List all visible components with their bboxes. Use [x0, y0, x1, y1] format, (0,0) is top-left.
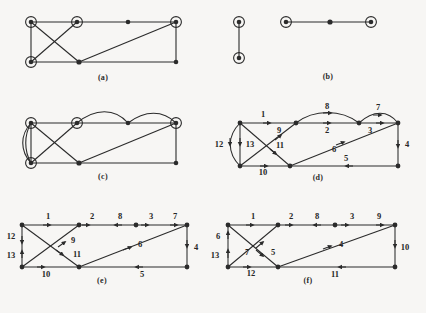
- label-edge-9: 9: [377, 211, 381, 221]
- edge-long-diag: [79, 22, 176, 62]
- panel-e-graph: 1 2 8 3 7 12 13 9 11 10 6 5 4: [0, 198, 213, 303]
- node-top-left: [226, 223, 231, 228]
- figure-canvas: (a): [0, 0, 426, 313]
- edge-left-curve-outer: [23, 123, 31, 163]
- label-edge-6: 6: [138, 239, 142, 249]
- label-edge-13: 13: [246, 139, 255, 149]
- node-group-ringed: [234, 17, 377, 64]
- edge-12: [230, 123, 240, 166]
- label-edge-1: 1: [261, 109, 265, 119]
- panel-f: 1 2 8 3 9 6 13 7 5 12 4 11 10 (f): [213, 198, 426, 303]
- node-bottom-left: [226, 265, 231, 270]
- node-bottom-left: [20, 265, 25, 270]
- node-bottom-mid: [76, 59, 81, 64]
- node-group: [20, 223, 190, 270]
- label-edge-7: 7: [376, 102, 381, 112]
- panel-f-graph: 1 2 8 3 9 6 13 7 5 12 4 11 10: [213, 198, 426, 303]
- node-top-left: [238, 121, 243, 126]
- edge-top-arc-left: [77, 112, 128, 123]
- label-edge-2: 2: [325, 125, 329, 135]
- label-edge-10: 10: [401, 242, 410, 252]
- label-edge-12: 12: [215, 139, 224, 149]
- node-top-mid: [126, 121, 131, 126]
- node-top-mid-left: [294, 121, 299, 126]
- node-top-right: [393, 223, 398, 228]
- arrow-6: [123, 247, 131, 250]
- label-edge-13: 13: [211, 250, 220, 260]
- node-top-mid-left: [276, 223, 281, 228]
- label-edge-5: 5: [140, 269, 144, 279]
- node-group: [238, 121, 401, 169]
- label-edge-5: 5: [271, 247, 275, 257]
- label-edge-11: 11: [73, 249, 81, 259]
- node-top-mid: [126, 20, 131, 25]
- node-bottom-mid: [276, 265, 281, 270]
- label-edge-8: 8: [325, 101, 329, 111]
- node-bottom-right: [396, 164, 401, 169]
- label-edge-11: 11: [331, 269, 339, 279]
- label-edge-1: 1: [46, 211, 50, 221]
- label-edge-3: 3: [368, 125, 372, 135]
- node-top-right: [396, 121, 401, 126]
- label-edge-2: 2: [90, 211, 94, 221]
- node-bottom-right: [393, 265, 398, 270]
- node-group: [226, 223, 398, 270]
- label-edge-1: 1: [251, 211, 255, 221]
- label-edge-9: 9: [71, 235, 75, 245]
- node-path-middle: [327, 19, 332, 24]
- arrow-11: [56, 250, 63, 255]
- node-group-ringed: [26, 118, 182, 169]
- panel-c-caption: (c): [83, 172, 123, 181]
- label-edge-10: 10: [42, 269, 51, 279]
- label-edge-2: 2: [289, 211, 293, 221]
- edge-top-arc-right: [128, 113, 176, 123]
- node-group-plain: [327, 19, 332, 24]
- label-edge-7: 7: [173, 211, 178, 221]
- label-edge-3: 3: [350, 211, 354, 221]
- panel-e: 1 2 8 3 7 12 13 9 11 10 6 5 4 (e): [0, 198, 213, 303]
- panel-a-caption: (a): [83, 73, 123, 82]
- panel-a: (a): [0, 0, 213, 90]
- label-edge-10: 10: [259, 167, 268, 177]
- node-top-mid-right: [333, 223, 338, 228]
- label-edge-3: 3: [149, 211, 153, 221]
- node-bottom-left: [238, 164, 243, 169]
- node-bottom-mid: [77, 265, 82, 270]
- edge-8: [296, 113, 359, 124]
- node-top-right: [185, 223, 190, 228]
- label-edge-11: 11: [276, 140, 284, 150]
- label-edge-6: 6: [332, 144, 336, 154]
- label-edge-8: 8: [118, 211, 122, 221]
- edge-label-group: 1 2 8 3 9 6 13 7 5 12 4 11 10: [211, 211, 410, 279]
- label-edge-4: 4: [194, 242, 199, 252]
- label-edge-5: 5: [344, 153, 348, 163]
- edge-4: [278, 225, 395, 267]
- node-bottom-mid: [76, 160, 81, 165]
- arrow-9: [58, 242, 65, 247]
- node-top-left: [20, 223, 25, 228]
- node-bottom-right: [174, 60, 179, 65]
- label-edge-7: 7: [245, 247, 250, 257]
- panel-e-caption: (e): [82, 276, 122, 285]
- node-bottom-right: [174, 161, 179, 166]
- edge-label-group: 1 2 8 3 7 12 13 9 11 10 6 5 4: [7, 211, 199, 279]
- panel-d-caption: (d): [298, 173, 338, 182]
- label-edge-12: 12: [247, 268, 256, 278]
- node-top-mid-right: [357, 121, 362, 126]
- panel-d: 1 8 2 7 3 4 5 6 9 10 11 12 13 (d): [213, 100, 426, 188]
- label-edge-4: 4: [405, 139, 410, 149]
- node-bottom-mid: [288, 164, 293, 169]
- edge-long-diag: [79, 123, 176, 163]
- panel-c: (c): [0, 100, 213, 188]
- label-edge-9: 9: [277, 125, 281, 135]
- edge-6: [79, 225, 187, 267]
- node-top-mid-right: [134, 223, 139, 228]
- label-edge-6: 6: [216, 231, 220, 241]
- node-group-ringed: [26, 17, 182, 68]
- panel-b: (b): [213, 0, 426, 90]
- node-bottom-right: [185, 265, 190, 270]
- panel-b-caption: (b): [308, 72, 348, 81]
- label-edge-12: 12: [7, 231, 16, 241]
- panel-f-caption: (f): [288, 276, 328, 285]
- label-edge-8: 8: [315, 211, 319, 221]
